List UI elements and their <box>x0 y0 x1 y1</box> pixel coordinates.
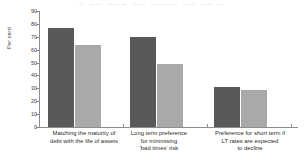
bar-chart-figure: — —— ——— —— ———— —— —— — 010203040506070… <box>0 0 304 160</box>
y-tick-label: 60 <box>31 46 37 54</box>
y-tick-label: 20 <box>31 97 37 105</box>
y-tick-label: 50 <box>31 59 37 67</box>
x-axis-tick-2 <box>207 124 208 128</box>
y-axis-title: Per cent <box>6 27 12 49</box>
bar-3-1 <box>214 87 240 127</box>
y-tick-70: 70 <box>39 37 40 38</box>
y-tick-50: 50 <box>39 63 40 64</box>
y-tick-label: 30 <box>31 84 37 92</box>
page-bleed-text: — —— ——— —— ———— —— —— — <box>0 0 304 9</box>
category-label-2: Long term preference for minimising 'bad… <box>115 130 203 153</box>
y-tick-30: 30 <box>39 88 40 89</box>
y-tick-10: 10 <box>39 114 40 115</box>
bar-1-2 <box>75 45 101 127</box>
y-tick-90: 90 <box>39 11 40 12</box>
y-tick-60: 60 <box>39 50 40 51</box>
x-axis-tick-3 <box>291 124 292 128</box>
y-tick-label: 70 <box>31 33 37 41</box>
y-tick-80: 80 <box>39 24 40 25</box>
y-axis-line <box>39 11 40 128</box>
bar-2-1 <box>130 37 156 127</box>
y-tick-label: 90 <box>31 7 37 15</box>
category-label-3: Preference for short term if LT rates ar… <box>194 130 304 153</box>
y-tick-0: 0 <box>39 127 40 128</box>
bar-2-2 <box>157 64 183 127</box>
y-tick-20: 20 <box>39 101 40 102</box>
category-axis-labels: Matching the maturity of debt with the l… <box>39 130 298 160</box>
bar-1-1 <box>48 28 74 127</box>
y-tick-40: 40 <box>39 75 40 76</box>
y-tick-label: 10 <box>31 110 37 118</box>
bar-3-2 <box>241 90 267 127</box>
y-tick-label: 40 <box>31 71 37 79</box>
x-axis-line <box>39 127 298 128</box>
x-axis-tick-1 <box>123 124 124 128</box>
plot-area: 0102030405060708090 <box>39 11 298 128</box>
y-tick-label: 80 <box>31 20 37 28</box>
